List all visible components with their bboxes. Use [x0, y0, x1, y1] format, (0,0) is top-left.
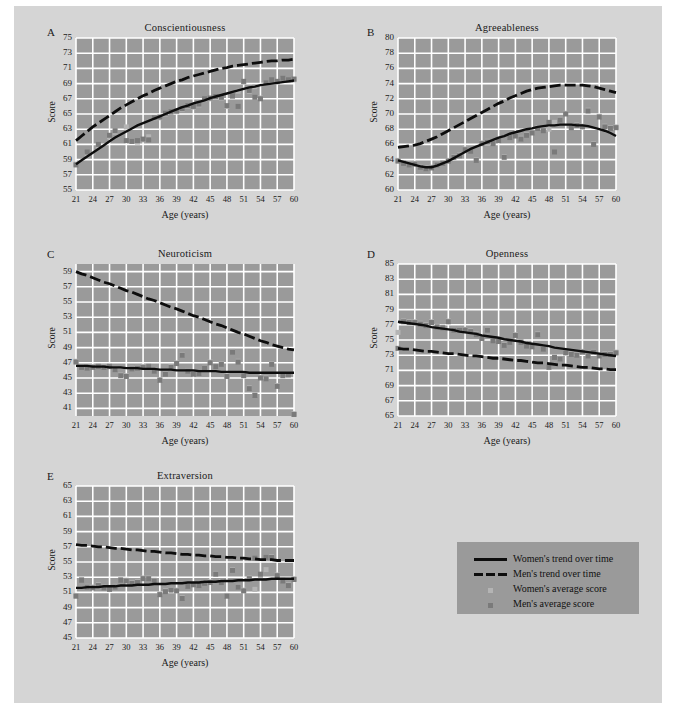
x-tick-label: 60	[282, 420, 306, 430]
legend-men-line-swatch	[474, 573, 507, 576]
y-tick-label: 83	[368, 273, 394, 283]
x-axis-label: Age (years)	[398, 209, 616, 220]
y-tick-label: 75	[46, 32, 72, 42]
y-axis-label: Score	[47, 308, 57, 368]
y-tick-label: 76	[368, 62, 394, 72]
x-tick-label: 60	[604, 420, 628, 430]
y-tick-label: 45	[46, 372, 72, 382]
y-tick-label: 63	[46, 495, 72, 505]
x-axis-label: Age (years)	[398, 435, 616, 446]
y-tick-label: 47	[46, 617, 72, 627]
y-tick-label: 59	[46, 154, 72, 164]
legend-women-square-swatch	[488, 588, 493, 593]
panel-letter-c: C	[47, 248, 54, 260]
plot-area-d	[398, 264, 616, 416]
y-tick-label: 73	[46, 47, 72, 57]
y-tick-label: 55	[46, 296, 72, 306]
y-tick-label: 59	[46, 266, 72, 276]
legend-item-label: Women's trend over time	[513, 553, 613, 564]
x-tick-label: 60	[282, 194, 306, 204]
y-tick-label: 71	[46, 62, 72, 72]
y-axis-label: Score	[47, 530, 57, 590]
y-tick-label: 43	[46, 387, 72, 397]
y-tick-label: 85	[368, 258, 394, 268]
y-tick-label: 62	[368, 169, 394, 179]
legend-women-line-swatch	[474, 558, 507, 561]
y-tick-label: 55	[46, 184, 72, 194]
legend-men-square-swatch	[488, 603, 493, 608]
legend-item-label: Men's trend over time	[513, 568, 601, 579]
plot-area-e	[76, 486, 294, 638]
panel-title-a: Conscientiousness	[76, 22, 294, 33]
panel-title-c: Neuroticism	[76, 248, 294, 259]
y-tick-label: 57	[46, 281, 72, 291]
x-axis-label: Age (years)	[76, 435, 294, 446]
y-tick-label: 80	[368, 32, 394, 42]
y-axis-label: Score	[47, 82, 57, 142]
panel-title-b: Agreeableness	[398, 22, 616, 33]
legend-item-label: Men's average score	[513, 598, 594, 609]
y-tick-label: 65	[46, 480, 72, 490]
y-tick-label: 45	[46, 632, 72, 642]
y-axis-label: Score	[369, 308, 379, 368]
y-tick-label: 64	[368, 154, 394, 164]
y-tick-label: 69	[368, 380, 394, 390]
y-tick-label: 60	[368, 184, 394, 194]
plot-area-c	[76, 264, 294, 416]
x-axis-label: Age (years)	[76, 209, 294, 220]
y-axis-label: Score	[369, 82, 379, 142]
x-axis-label: Age (years)	[76, 657, 294, 668]
plot-area-b	[398, 38, 616, 190]
y-tick-label: 49	[46, 602, 72, 612]
y-tick-label: 41	[46, 402, 72, 412]
x-tick-label: 60	[604, 194, 628, 204]
figure-page: AConscientiousness5557596163656769717375…	[14, 6, 662, 703]
y-tick-label: 57	[46, 169, 72, 179]
x-tick-label: 60	[282, 642, 306, 652]
legend-item-label: Women's average score	[513, 583, 607, 594]
y-tick-label: 65	[368, 410, 394, 420]
y-tick-label: 78	[368, 47, 394, 57]
plot-area-a	[76, 38, 294, 190]
y-tick-label: 61	[46, 510, 72, 520]
y-tick-label: 67	[368, 395, 394, 405]
panel-title-d: Openness	[398, 248, 616, 259]
panel-title-e: Extraversion	[76, 470, 294, 481]
y-tick-label: 81	[368, 288, 394, 298]
